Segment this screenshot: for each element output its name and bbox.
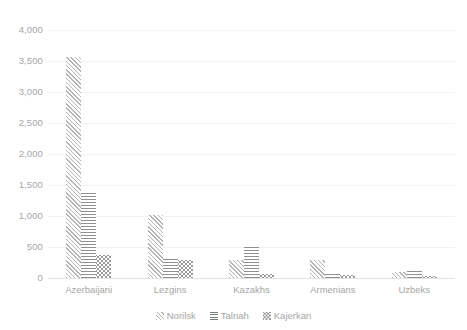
bar <box>81 193 96 278</box>
horizontal-lines-swatch <box>210 312 218 320</box>
bar <box>148 215 163 278</box>
y-axis-tick-label: 3,000 <box>0 87 43 97</box>
y-axis-tick-label: 500 <box>0 242 43 252</box>
bar <box>325 273 340 278</box>
legend-label: Norilsk <box>167 310 196 322</box>
bar <box>229 260 244 278</box>
bar-group <box>48 30 129 278</box>
bar-group <box>129 30 210 278</box>
y-axis-tick-label: 2,500 <box>0 118 43 128</box>
bar <box>163 259 178 278</box>
bar-group <box>292 30 373 278</box>
legend-label: Kajerkan <box>274 310 312 322</box>
bar <box>310 260 325 278</box>
bar <box>96 255 111 278</box>
y-axis: 05001,0001,5002,0002,5003,0003,5004,000 <box>0 30 43 278</box>
plot-area <box>48 30 455 278</box>
x-axis: AzerbaijaniLezginsKazakhsArmeniansUzbeks <box>48 284 455 300</box>
bar <box>66 57 81 278</box>
bar-chart: 05001,0001,5002,0002,5003,0003,5004,000 … <box>0 0 467 330</box>
bar <box>392 272 407 278</box>
bar <box>422 276 437 278</box>
y-axis-tick-label: 3,500 <box>0 56 43 66</box>
bar-group <box>374 30 455 278</box>
legend-item: Talnah <box>210 310 249 322</box>
dotted-swatch <box>263 312 271 320</box>
x-axis-tick-label: Kazakhs <box>211 284 292 296</box>
bar <box>340 275 355 278</box>
gridline <box>48 278 455 279</box>
legend-item: Norilsk <box>156 310 196 322</box>
y-axis-tick-label: 0 <box>0 273 43 283</box>
chart-legend: NorilskTalnahKajerkan <box>0 308 467 324</box>
x-axis-tick-label: Armenians <box>292 284 373 296</box>
bar-group <box>211 30 292 278</box>
diagonal-hatch-swatch <box>156 312 164 320</box>
y-axis-tick-label: 1,500 <box>0 180 43 190</box>
x-axis-tick-label: Lezgins <box>129 284 210 296</box>
bar <box>259 274 274 278</box>
bar <box>244 246 259 278</box>
bar <box>407 271 422 278</box>
bar <box>178 260 193 278</box>
y-axis-tick-label: 1,000 <box>0 211 43 221</box>
x-axis-tick-label: Azerbaijani <box>48 284 129 296</box>
y-axis-tick-label: 4,000 <box>0 25 43 35</box>
legend-label: Talnah <box>221 310 249 322</box>
x-axis-tick-label: Uzbeks <box>374 284 455 296</box>
y-axis-tick-label: 2,000 <box>0 149 43 159</box>
legend-item: Kajerkan <box>263 310 312 322</box>
